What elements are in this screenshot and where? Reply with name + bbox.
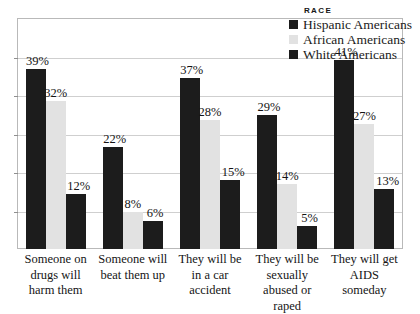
bar: 14% [277, 184, 297, 249]
x-axis-label-line: abused or raped [251, 283, 324, 314]
bar: 15% [220, 180, 240, 249]
x-axis-label: They will bein a caraccident [171, 252, 248, 304]
x-axis-label-line: Someone will [96, 252, 169, 268]
x-axis-labels: Someone ondrugs willharm themSomeone wil… [17, 252, 403, 304]
legend-label: African Americans [303, 32, 405, 47]
bar-value-label: 13% [376, 175, 399, 188]
legend-title: RACE [289, 6, 412, 15]
x-axis-label-line: Someone on [19, 252, 92, 268]
legend-swatch-icon [289, 35, 298, 44]
bar: 32% [46, 101, 66, 249]
x-axis-label: Someone willbeat them up [94, 252, 171, 304]
x-axis-label: They will besexuallyabused or raped [249, 252, 326, 304]
x-axis-label-line: AIDS [328, 268, 401, 284]
x-axis-label-line: sexually [251, 268, 324, 284]
bar: 13% [374, 189, 394, 249]
bar-group: 22%8%6% [103, 18, 163, 249]
bar: 39% [26, 69, 46, 249]
bar-group: 39%32%12% [26, 18, 86, 249]
x-axis-label-line: drugs will [19, 268, 92, 284]
x-axis-label-line: accident [173, 283, 246, 299]
bar: 37% [180, 78, 200, 249]
x-axis-label-line: They will be [251, 252, 324, 268]
bar-value-label: 12% [67, 180, 90, 193]
bar-value-label: 6% [147, 207, 164, 220]
bar-group: 37%28%15% [180, 18, 240, 249]
bar: 12% [66, 194, 86, 249]
bar-value-label: 14% [276, 170, 299, 183]
bar: 29% [257, 115, 277, 249]
legend-item-african-americans: African Americans [289, 32, 412, 47]
bar: 27% [354, 124, 374, 249]
bar-value-label: 27% [353, 110, 376, 123]
x-axis-label-line: someday [328, 283, 401, 299]
legend-item-white-americans: White Americans [289, 47, 412, 62]
bar: 6% [143, 221, 163, 249]
x-axis-label-line: They will get [328, 252, 401, 268]
bar-value-label: 37% [180, 64, 203, 77]
legend-swatch-icon [289, 50, 298, 59]
bar: 5% [297, 226, 317, 249]
x-axis-label-line: in a car [173, 268, 246, 284]
bar: 8% [123, 212, 143, 249]
x-axis-label-line: harm them [19, 283, 92, 299]
x-axis-label-line: beat them up [96, 268, 169, 284]
bar-value-label: 32% [44, 87, 67, 100]
legend: RACE Hispanic Americans African American… [289, 6, 412, 62]
x-axis-label: Someone ondrugs willharm them [17, 252, 94, 304]
bar: 22% [103, 147, 123, 249]
legend-label: Hispanic Americans [303, 17, 412, 32]
x-axis-label: They will getAIDSsomeday [326, 252, 403, 304]
bar-value-label: 29% [258, 101, 281, 114]
bar-value-label: 28% [199, 106, 222, 119]
bar-value-label: 8% [124, 198, 141, 211]
bar: 41% [334, 60, 354, 249]
x-axis-label-line: They will be [173, 252, 246, 268]
bar-value-label: 5% [301, 212, 318, 225]
bar-value-label: 39% [26, 55, 49, 68]
legend-label: White Americans [303, 47, 397, 62]
legend-item-hispanic-americans: Hispanic Americans [289, 17, 412, 32]
legend-swatch-icon [289, 20, 298, 29]
bar: 28% [200, 120, 220, 249]
bar-value-label: 15% [222, 166, 245, 179]
bar-value-label: 22% [103, 133, 126, 146]
